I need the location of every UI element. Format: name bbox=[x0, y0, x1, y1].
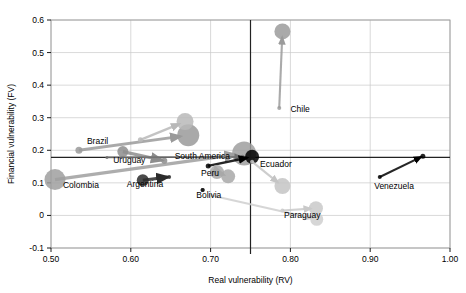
bubble-end bbox=[161, 158, 167, 164]
point-label-uruguay: Uruguay bbox=[113, 155, 146, 165]
bubble-start bbox=[105, 156, 108, 159]
bubble-start bbox=[250, 160, 254, 164]
point-label-colombia: Colombia bbox=[63, 180, 99, 190]
bubble-end bbox=[420, 154, 425, 159]
point-label-chile: Chile bbox=[290, 104, 310, 114]
y-tick-label: 0.1 bbox=[32, 178, 44, 188]
y-tick-label: 0.5 bbox=[32, 48, 44, 58]
plot-area: 0.500.600.700.800.901.00-0.100.10.20.30.… bbox=[0, 0, 466, 293]
bubble-end bbox=[221, 169, 235, 183]
scatter-chart-figure: 0.500.600.700.800.901.00-0.100.10.20.30.… bbox=[0, 0, 466, 293]
point-label-brazil: Brazil bbox=[87, 136, 108, 146]
x-tick-label: 1.00 bbox=[442, 254, 459, 264]
x-tick-label: 0.70 bbox=[202, 254, 219, 264]
connector-arrow bbox=[380, 157, 422, 177]
bubble-end bbox=[177, 113, 194, 130]
y-tick-label: 0.6 bbox=[32, 15, 44, 25]
point-label-ecuador: Ecuador bbox=[260, 159, 292, 169]
point-label-bolivia: Bolivia bbox=[196, 190, 221, 200]
x-tick-label: 0.60 bbox=[123, 254, 140, 264]
y-tick-label: -0.1 bbox=[29, 243, 44, 253]
bubble-start bbox=[75, 147, 82, 154]
y-axis-title: Financial vulnerability (FV) bbox=[6, 84, 16, 184]
series-chile bbox=[274, 23, 290, 110]
point-label-argentina: Argentina bbox=[127, 179, 164, 189]
bubble-end bbox=[274, 23, 290, 39]
bubble-end bbox=[167, 175, 171, 179]
y-tick-label: 0 bbox=[39, 210, 44, 220]
x-tick-label: 0.50 bbox=[43, 254, 60, 264]
x-axis-title: Real vulnerability (RV) bbox=[208, 275, 293, 285]
bubble-start bbox=[378, 175, 382, 179]
x-tick-label: 0.80 bbox=[282, 254, 299, 264]
bubble-start bbox=[138, 137, 143, 142]
bubble-end bbox=[274, 178, 290, 194]
point-label-peru: Peru bbox=[201, 168, 219, 178]
y-tick-label: 0.3 bbox=[32, 113, 44, 123]
point-label-paraguay: Paraguay bbox=[284, 210, 321, 220]
connector-arrow bbox=[279, 37, 282, 108]
point-label-venezuela: Venezuela bbox=[374, 181, 414, 191]
y-tick-label: 0.2 bbox=[32, 145, 44, 155]
x-tick-label: 0.90 bbox=[362, 254, 379, 264]
y-tick-label: 0.4 bbox=[32, 80, 44, 90]
point-label-south-america: South America bbox=[175, 151, 231, 161]
bubble-start bbox=[277, 106, 281, 110]
